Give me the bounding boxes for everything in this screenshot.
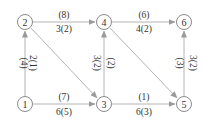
node-3-label: 3 [102, 99, 107, 110]
edge-5-6-capacity: (3) [174, 57, 185, 68]
edge-2-4-capacity: (8) [58, 10, 69, 21]
node-2-label: 2 [23, 17, 28, 28]
node-4: 4 [97, 15, 112, 30]
node-1: 1 [18, 97, 33, 112]
node-1-label: 1 [23, 99, 28, 110]
edge-1-3-flow: 6(5) [56, 107, 72, 118]
edge-4-5 [110, 28, 177, 98]
edge-3-5-flow: 6(3) [136, 107, 152, 118]
edge-1-2-flow: 2(1) [27, 55, 38, 71]
flow-network-diagram: (8) 3(2) (6) 4(2) (7) 6(5) (1) 6(3) (4) … [0, 0, 203, 124]
node-6-label: 6 [182, 17, 187, 28]
node-5: 5 [177, 97, 192, 112]
edge-2-3 [31, 28, 97, 98]
edge-4-6-flow: 4(2) [136, 24, 152, 35]
edge-4-6-capacity: (6) [138, 10, 149, 21]
node-2: 2 [18, 15, 33, 30]
node-6: 6 [177, 15, 192, 30]
node-4-label: 4 [102, 17, 107, 28]
node-5-label: 5 [182, 99, 187, 110]
edge-3-4-flow: 3(2) [91, 55, 102, 71]
edge-1-2-capacity: (4) [18, 57, 29, 68]
edge-1-3-capacity: (7) [58, 92, 69, 103]
edge-2-4-flow: 3(2) [56, 24, 72, 35]
edge-3-5-capacity: (1) [138, 92, 149, 103]
node-3: 3 [97, 97, 112, 112]
edge-5-6-flow: 3(2) [187, 55, 198, 71]
edge-3-4-capacity: (2) [105, 57, 116, 68]
